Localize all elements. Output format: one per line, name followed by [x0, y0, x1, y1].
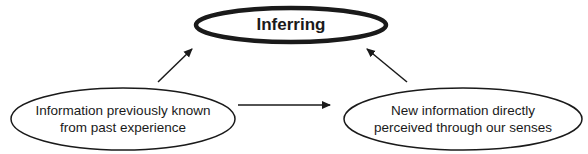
past-experience-line-1: Information previously known — [36, 102, 211, 119]
past-experience-line-2: from past experience — [60, 119, 186, 136]
arrow-left-to-top — [158, 49, 192, 82]
senses-node-label: New information directly perceived throu… — [346, 100, 580, 138]
senses-line-2: perceived through our senses — [374, 119, 552, 136]
senses-line-1: New information directly — [391, 102, 535, 119]
inferring-node-label: Inferring — [196, 12, 386, 38]
arrow-right-to-top — [367, 49, 407, 82]
past-experience-node-label: Information previously known from past e… — [14, 100, 232, 138]
